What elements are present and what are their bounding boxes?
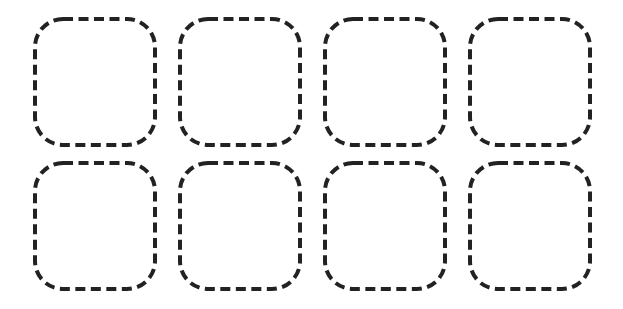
dashed-rounded-square-icon (33, 17, 157, 147)
dashed-placeholder-slot-r1-c4 (468, 17, 592, 147)
dashed-rounded-square-icon (178, 161, 302, 291)
dashed-placeholder-slot-r2-c2 (178, 161, 302, 291)
dashed-placeholder-slot-r2-c1 (33, 161, 157, 291)
dashed-rounded-square-icon (323, 17, 447, 147)
dashed-placeholder-slot-r2-c4 (468, 161, 592, 291)
dashed-rounded-square-icon (33, 161, 157, 291)
dashed-placeholder-slot-r2-c3 (323, 161, 447, 291)
dashed-rounded-square-icon (468, 161, 592, 291)
dashed-rounded-square-icon (468, 17, 592, 147)
dashed-placeholder-slot-r1-c1 (33, 17, 157, 147)
dashed-rounded-square-icon (323, 161, 447, 291)
dashed-rounded-square-icon (178, 17, 302, 147)
dashed-placeholder-slot-r1-c3 (323, 17, 447, 147)
dashed-placeholder-slot-r1-c2 (178, 17, 302, 147)
